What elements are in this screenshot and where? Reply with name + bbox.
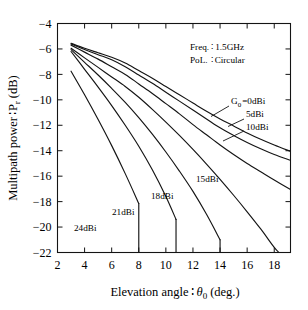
- x-tick-label: 18: [268, 258, 280, 272]
- curve-label-0dbi: G0=0dBi: [231, 96, 266, 109]
- curve-label-10dbi: 10dBi: [246, 122, 269, 132]
- x-axis-label: Elevation angle∶θ0(deg.): [110, 285, 239, 301]
- x-tick-label: 8: [136, 258, 142, 272]
- curve-18dbi: [71, 50, 220, 240]
- annotation-frequency: Freq.∶1.5GHz: [190, 42, 244, 52]
- y-axis-ticks: −4−6−8−10−12−14−16−18−20−22: [33, 17, 291, 260]
- leader-line-5dbi: [228, 119, 244, 127]
- y-tick-label: −8: [39, 68, 52, 82]
- y-tick-label: −12: [33, 118, 52, 132]
- x-tick-label: 10: [160, 258, 172, 272]
- multipath-power-chart: −4−6−8−10−12−14−16−18−20−22 246810121416…: [0, 0, 308, 310]
- curve-label-5dbi: 5dBi: [246, 109, 264, 119]
- curve-label-21dbi: 21dBi: [112, 207, 135, 217]
- chart-figure: −4−6−8−10−12−14−16−18−20−22 246810121416…: [0, 0, 308, 310]
- y-tick-label: −16: [33, 169, 52, 183]
- leader-lines: [211, 106, 244, 141]
- y-tick-label: −10: [33, 93, 52, 107]
- annotation-polarization: PoL.∶Circular: [190, 55, 245, 65]
- x-tick-label: 14: [214, 258, 226, 272]
- y-tick-label: −14: [33, 144, 52, 158]
- curve-label-18dbi: 18dBi: [151, 191, 174, 201]
- y-tick-label: −18: [33, 195, 52, 209]
- data-curves: [71, 43, 290, 252]
- x-tick-label: 4: [82, 258, 88, 272]
- y-tick-label: −6: [39, 42, 52, 56]
- x-tick-label: 2: [55, 258, 61, 272]
- y-tick-label: −4: [39, 17, 52, 31]
- y-tick-label: −20: [33, 220, 52, 234]
- y-axis-label: Multipath power∶Pr(dB): [6, 75, 22, 201]
- plot-frame: [58, 24, 291, 253]
- curve-label-24dbi: 24dBi: [74, 223, 97, 233]
- y-tick-label: −22: [33, 246, 52, 260]
- curve-label-15dbi: 15dBi: [196, 174, 219, 184]
- curve-24dbi: [71, 71, 139, 203]
- x-tick-label: 6: [109, 258, 115, 272]
- leader-line-0dbi: [211, 106, 229, 117]
- x-tick-label: 16: [241, 258, 253, 272]
- x-tick-label: 12: [187, 258, 199, 272]
